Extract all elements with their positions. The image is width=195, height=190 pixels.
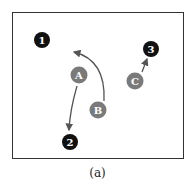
svg-text:2: 2 xyxy=(67,137,74,148)
node-1: 1 xyxy=(34,32,50,48)
svg-text:3: 3 xyxy=(148,44,155,55)
figure-caption: (a) xyxy=(0,166,195,180)
node-b: B xyxy=(90,102,107,119)
arrow-a-to-2 xyxy=(69,86,77,130)
svg-text:1: 1 xyxy=(39,35,46,46)
arrow-c-to-3 xyxy=(142,59,147,72)
node-2: 2 xyxy=(62,134,78,150)
node-c: C xyxy=(127,73,144,90)
node-a: A xyxy=(71,67,88,84)
diagram-canvas: 1 2 3 A B C xyxy=(0,0,195,190)
svg-text:B: B xyxy=(94,105,102,116)
node-3: 3 xyxy=(143,41,159,57)
svg-text:A: A xyxy=(74,70,83,81)
svg-text:C: C xyxy=(131,76,139,87)
